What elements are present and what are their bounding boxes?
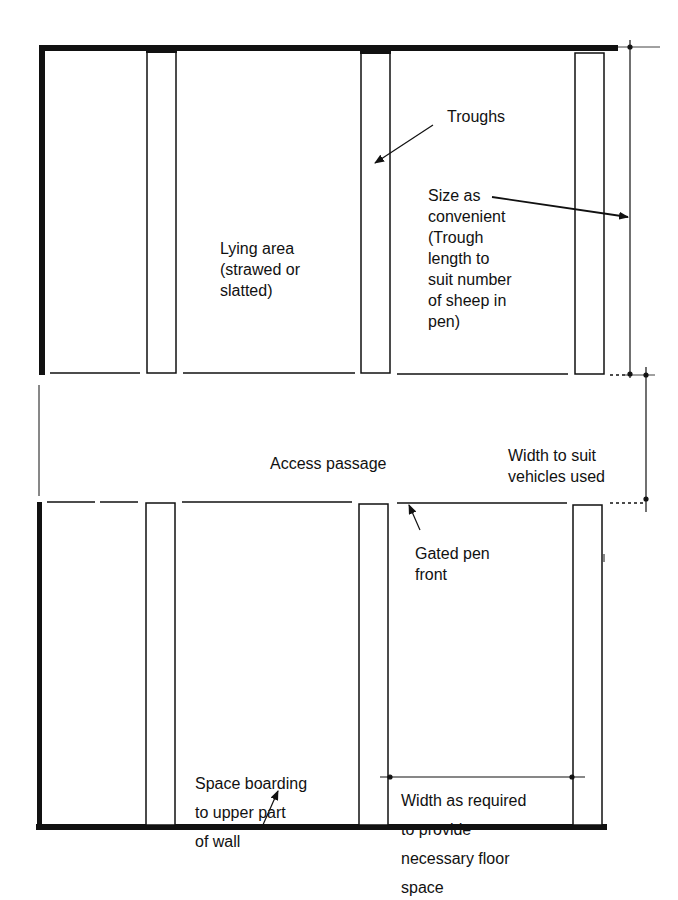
space-boarding-label: Space boarding to upper part of wall <box>195 769 307 856</box>
top-wall <box>40 45 618 51</box>
upper-troughs <box>147 52 604 374</box>
lying-area-label: Lying area (strawed or slatted) <box>220 238 300 301</box>
passage-width-dimension <box>625 367 655 512</box>
width-as-required-label: Width as required to provide necessary f… <box>401 786 526 900</box>
lower-pen-front <box>47 502 645 503</box>
size-as-convenient-label: Size as convenient (Trough length to sui… <box>428 185 512 332</box>
troughs-label: Troughs <box>447 106 505 127</box>
left-wall-lower <box>37 502 42 830</box>
pen-depth-dimension <box>612 40 660 378</box>
size-arrow <box>492 197 628 217</box>
width-to-suit-label: Width to suit vehicles used <box>508 445 605 487</box>
gated-pen-arrow <box>409 505 420 530</box>
gated-pen-front-label: Gated pen front <box>415 543 490 585</box>
upper-pen-front <box>50 373 625 375</box>
floor-space-width-dimension <box>380 775 585 779</box>
left-wall-upper <box>39 45 45 375</box>
access-passage-label: Access passage <box>270 453 387 474</box>
